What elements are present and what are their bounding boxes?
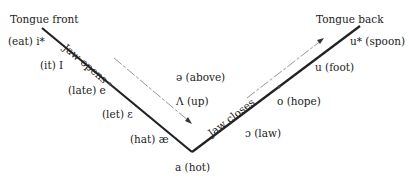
vowel-label-above: ə (above) (176, 72, 225, 83)
jaw-closes-arrow (247, 40, 322, 98)
vowel-label-it: (it) I (40, 60, 63, 71)
vowel-label-let: (let) ɛ (102, 109, 133, 120)
vowel-label-spoon: u* (spoon) (350, 36, 405, 47)
arrowhead-icon (185, 117, 192, 124)
vowel-label-hat: (hat) æ (130, 134, 169, 145)
vowel-label-hot: a (hot) (175, 162, 210, 173)
vowel-label-up: Λ (up) (176, 96, 209, 107)
tick-mark (109, 83, 112, 86)
tongue-back-label: Tongue back (316, 14, 384, 25)
tick-mark (278, 86, 281, 89)
vowel-label-law: ɔ (law) (245, 128, 281, 139)
vowel-label-eat: (eat) i* (8, 36, 45, 47)
vowel-label-late: (late) e (68, 85, 106, 96)
vowel-label-foot: u (foot) (315, 62, 354, 73)
vowel-label-hope: o (hope) (277, 96, 321, 107)
tongue-front-label: Tongue front (10, 14, 79, 25)
vowel-diagram (0, 0, 409, 179)
